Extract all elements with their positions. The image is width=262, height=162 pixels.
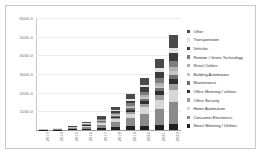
legend-item-label: Office Metering / utilities: [193, 89, 236, 94]
legend-item[interactable]: Remote / Green Technology: [187, 53, 255, 62]
y-axis-tick-label: 6000.0: [20, 16, 33, 21]
bar-series-group: [36, 18, 181, 130]
bar-segment: [126, 118, 135, 126]
legend-item-label: Transportation: [193, 37, 219, 42]
chart-figure: 1000.02000.03000.04000.05000.06000.0 201…: [5, 5, 256, 149]
x-axis-tick-label: 2015: [74, 132, 79, 141]
legend-swatch-icon: [187, 64, 190, 67]
bar-column: [97, 116, 106, 130]
legend-item-label: Vehicles: [193, 46, 208, 51]
bar-segment: [169, 102, 178, 124]
bar-column: [53, 128, 62, 130]
bar-column: [126, 94, 135, 130]
bar-segment: [155, 125, 164, 130]
bar-segment: [126, 126, 135, 130]
bar-column: [169, 35, 178, 130]
legend-item[interactable]: Consumer Electronics: [187, 113, 255, 122]
legend-item[interactable]: Building Automation: [187, 70, 255, 79]
bar-column: [68, 126, 77, 130]
legend-swatch-icon: [187, 38, 190, 41]
legend-swatch-icon: [187, 116, 190, 119]
bar-segment: [169, 90, 178, 102]
legend-item[interactable]: Home Automation: [187, 104, 255, 113]
legend-item-label: Remote / Green Technology: [193, 55, 243, 60]
legend-item-label: Retail Outlets: [193, 63, 217, 68]
legend-swatch-icon: [187, 47, 190, 50]
y-axis-tick-label: 4000.0: [20, 53, 33, 58]
bar-column: [39, 129, 48, 130]
legend-item[interactable]: Transportation: [187, 36, 255, 45]
legend-item[interactable]: Smart Metering / Utilities: [187, 122, 255, 131]
screenshot-root: 1000.02000.03000.04000.05000.06000.0 201…: [0, 0, 262, 162]
legend-item[interactable]: Maintenance: [187, 79, 255, 88]
y-axis-tick-label: 2000.0: [20, 90, 33, 95]
legend-swatch-icon: [187, 30, 190, 33]
bar-column: [155, 59, 164, 130]
legend-swatch-icon: [187, 107, 190, 110]
legend-swatch-icon: [187, 98, 190, 101]
bar-segment: [97, 128, 106, 130]
bottom-caption: [0, 152, 262, 162]
bar-segment: [155, 100, 164, 109]
x-axis-tick-label: 2017: [103, 132, 108, 141]
x-axis-tick-label: 2019: [132, 132, 137, 141]
legend-item-label: Office Security: [193, 98, 219, 103]
bar-segment: [82, 129, 91, 130]
y-axis-tick-label: 1000.0: [20, 109, 33, 114]
x-axis-tick-label: 2022: [175, 132, 180, 141]
legend-swatch-icon: [187, 55, 190, 58]
bar-segment: [140, 78, 149, 85]
plot-area-wrapper: 1000.02000.03000.04000.05000.06000.0 201…: [6, 6, 257, 150]
legend-item-label: Building Automation: [193, 72, 228, 77]
legend-item[interactable]: Retail Outlets: [187, 61, 255, 70]
legend-item-label: Other: [193, 29, 203, 34]
bar-column: [111, 107, 120, 130]
bar-segment: [140, 114, 149, 126]
bar-segment: [68, 129, 77, 130]
bar-column: [82, 122, 91, 130]
bar-segment: [169, 124, 178, 130]
legend-item-label: Smart Metering / Utilities: [193, 123, 237, 128]
x-axis-tick-label: 2020: [146, 132, 151, 141]
x-axis-tick-label: 2014: [59, 132, 64, 141]
legend-swatch-icon: [187, 90, 190, 93]
bar-segment: [155, 109, 164, 125]
legend-item[interactable]: Office Metering / utilities: [187, 87, 255, 96]
legend-item-label: Home Automation: [193, 106, 225, 111]
y-axis-tick-label: 3000.0: [20, 72, 33, 77]
x-axis-tick-label: 2016: [88, 132, 93, 141]
bar-segment: [111, 127, 120, 130]
legend-item[interactable]: Vehicles: [187, 44, 255, 53]
x-axis-tick-label: 2013: [45, 132, 50, 141]
bar-segment: [140, 126, 149, 130]
legend-item[interactable]: Office Security: [187, 96, 255, 105]
bar-segment: [155, 59, 164, 68]
plot-area: 1000.02000.03000.04000.05000.06000.0: [36, 18, 181, 130]
legend-item[interactable]: Other: [187, 27, 255, 36]
legend-swatch-icon: [187, 124, 190, 127]
legend-swatch-icon: [187, 73, 190, 76]
bar-column: [140, 78, 149, 130]
x-axis-tick-label: 2018: [117, 132, 122, 141]
legend-item-label: Maintenance: [193, 80, 216, 85]
bar-segment: [169, 35, 178, 48]
legend-swatch-icon: [187, 81, 190, 84]
x-axis-line: [36, 130, 181, 131]
legend-item-label: Consumer Electronics: [193, 115, 232, 120]
x-axis-tick-label: 2021: [161, 132, 166, 141]
bar-segment: [169, 53, 178, 61]
y-axis-tick-label: 5000.0: [20, 34, 33, 39]
chart-legend: OtherTransportationVehiclesRemote / Gree…: [187, 27, 255, 130]
